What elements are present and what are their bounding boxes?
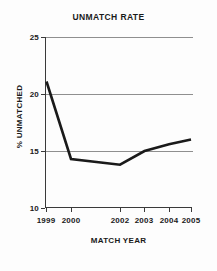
x-axis-tick-1999 bbox=[46, 208, 47, 212]
x-axis-tick-label-2000: 2000 bbox=[54, 216, 88, 225]
plot-area bbox=[45, 37, 192, 208]
y-axis-tick-label-25: 25 bbox=[13, 33, 39, 42]
chart-title: UNMATCH RATE bbox=[0, 12, 217, 22]
y-axis-tick-10 bbox=[41, 208, 45, 209]
gridline-25 bbox=[46, 37, 193, 38]
y-axis-title: % UNMATCHED bbox=[15, 57, 24, 177]
x-axis-tick-label-2005: 2005 bbox=[174, 216, 208, 225]
y-axis-tick-label-10: 10 bbox=[13, 204, 39, 213]
x-axis-tick-2003 bbox=[144, 208, 145, 212]
gridline-20 bbox=[46, 94, 193, 95]
x-axis-tick-2000 bbox=[71, 208, 72, 212]
x-axis-tick-2004 bbox=[169, 208, 170, 212]
unmatch-rate-chart: UNMATCH RATE 25 20 15 10 1999 2000 2002 … bbox=[0, 0, 217, 271]
gridline-15 bbox=[46, 151, 193, 152]
x-axis-tick-2002 bbox=[120, 208, 121, 212]
x-axis-tick-2005 bbox=[191, 208, 192, 212]
x-axis-title: MATCH YEAR bbox=[45, 236, 192, 245]
